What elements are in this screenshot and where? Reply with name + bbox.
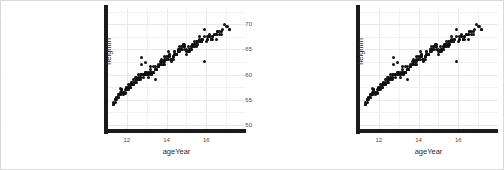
data-point xyxy=(364,103,367,106)
data-point xyxy=(467,38,470,41)
gridline-horizontal-minor xyxy=(359,37,498,38)
gridline-horizontal-minor xyxy=(359,62,498,63)
y-tick-label: 60 xyxy=(222,72,252,78)
x-axis-line-left xyxy=(104,129,246,133)
data-point xyxy=(389,78,392,81)
data-point xyxy=(170,58,173,61)
data-point xyxy=(154,68,157,71)
plot-area-right xyxy=(359,9,498,130)
data-point xyxy=(154,78,157,81)
gridline-horizontal-minor xyxy=(107,62,246,63)
data-point xyxy=(397,71,400,74)
data-point xyxy=(134,81,137,84)
data-point xyxy=(211,38,214,41)
data-point xyxy=(129,86,132,89)
data-point xyxy=(381,86,384,89)
data-point xyxy=(145,71,148,74)
x-tick-label: 16 xyxy=(443,137,473,143)
data-point xyxy=(452,40,455,43)
y-axis-title-right: heightIn xyxy=(356,30,365,74)
data-point xyxy=(406,68,409,71)
data-point xyxy=(432,48,435,51)
data-point xyxy=(182,45,185,48)
data-point xyxy=(215,33,218,36)
data-point xyxy=(374,91,377,94)
data-point xyxy=(417,58,420,61)
y-axis-title-left: heightIn xyxy=(104,30,113,74)
x-tick-label: 14 xyxy=(152,137,182,143)
x-tick-label: 12 xyxy=(112,137,142,143)
gridline-horizontal xyxy=(359,125,498,126)
gridline-horizontal-minor xyxy=(359,112,498,113)
data-point xyxy=(218,33,221,36)
gridline-horizontal-minor xyxy=(359,12,498,13)
data-point xyxy=(122,91,125,94)
y-tick-label: 65 xyxy=(222,46,252,52)
x-axis-title-right: ageYear xyxy=(359,147,498,156)
y-tick-label: 50 xyxy=(222,122,252,128)
data-point xyxy=(165,58,168,61)
gridline-horizontal xyxy=(359,100,498,101)
gridline-horizontal xyxy=(359,75,498,76)
data-point xyxy=(190,48,193,51)
data-point xyxy=(457,40,460,43)
data-point xyxy=(386,81,389,84)
y-tick-label: 70 xyxy=(222,21,252,27)
scatter-panel-left: heightIn ageYear 1214165055606570 xyxy=(1,1,253,170)
data-point xyxy=(159,63,162,66)
x-tick-label: 12 xyxy=(364,137,394,143)
data-point xyxy=(442,48,445,51)
gridline-horizontal-minor xyxy=(107,12,246,13)
data-point xyxy=(437,53,440,56)
data-point xyxy=(463,38,466,41)
data-point xyxy=(392,56,395,59)
x-tick-label: 16 xyxy=(191,137,221,143)
x-tick-label: 14 xyxy=(404,137,434,143)
x-axis-line-right xyxy=(356,129,498,133)
data-point xyxy=(228,28,231,31)
data-point xyxy=(480,28,483,31)
gridline-horizontal-minor xyxy=(107,37,246,38)
data-point xyxy=(455,28,458,31)
data-point xyxy=(470,33,473,36)
data-point xyxy=(411,63,414,66)
data-point xyxy=(185,53,188,56)
data-point xyxy=(392,63,395,66)
data-point xyxy=(180,48,183,51)
data-point xyxy=(215,38,218,41)
data-point xyxy=(203,28,206,31)
data-point xyxy=(112,103,115,106)
x-axis-title-left: ageYear xyxy=(107,147,246,156)
data-point xyxy=(137,78,140,81)
data-point xyxy=(448,43,451,46)
data-point xyxy=(221,28,224,31)
y-tick-label: 55 xyxy=(222,97,252,103)
gridline-horizontal-minor xyxy=(107,112,246,113)
figure-container: heightIn ageYear 1214165055606570 height… xyxy=(0,0,504,170)
data-point xyxy=(434,45,437,48)
data-point xyxy=(406,78,409,81)
plot-area-left xyxy=(107,9,246,130)
data-point xyxy=(477,25,480,28)
data-point xyxy=(422,58,425,61)
data-point xyxy=(467,33,470,36)
data-point xyxy=(149,71,152,74)
data-point xyxy=(473,28,476,31)
data-point xyxy=(205,40,208,43)
scatter-panel-right: heightIn ageYear 1214165055606570 xyxy=(253,1,504,170)
data-point xyxy=(140,56,143,59)
data-point xyxy=(196,43,199,46)
data-point xyxy=(401,71,404,74)
data-point xyxy=(140,63,143,66)
data-point xyxy=(200,40,203,43)
